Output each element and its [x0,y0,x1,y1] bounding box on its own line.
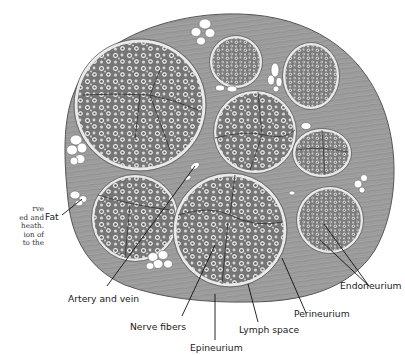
label-artery-and-vein: Artery and vein [68,293,139,304]
label-endoneurium: Endoneurium [340,280,402,291]
fascicle-lower-right [298,188,362,252]
fascicle-right-middle [294,130,350,176]
label-nerve-fibers: Nerve fibers [130,321,186,332]
nerve-cross-section-figure: Fat Artery and vein Nerve fibers Epineur… [0,0,405,355]
fascicle-top-right [284,44,338,108]
label-perineurium: Perineurium [294,308,350,319]
caption-line: to the [0,239,44,248]
caption-fragment: rve ed and heath. ion of to the [0,205,44,248]
fascicle-large-bottom-center [175,175,285,285]
fascicle-small-top-center [211,37,261,87]
label-lymph-space: Lymph space [239,324,300,335]
label-fat: Fat [45,211,59,222]
nerve-diagram-svg: Fat Artery and vein Nerve fibers Epineur… [0,0,405,355]
label-epineurium: Epineurium [190,342,243,353]
fascicle-center-right [215,92,295,172]
